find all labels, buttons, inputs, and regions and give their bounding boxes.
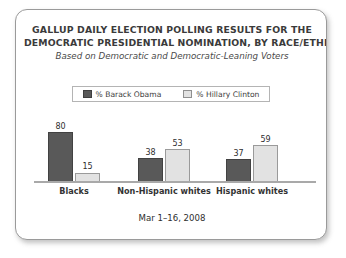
chart-subtitle: Based on Democratic and Democratic-Leani…	[24, 51, 320, 62]
bar-column: 38	[138, 110, 163, 182]
bar-group: 3759	[209, 110, 295, 182]
x-axis-line	[34, 181, 316, 183]
bar-obama	[226, 159, 251, 182]
bar-value-label: 37	[233, 149, 243, 158]
legend-swatch-obama-icon	[83, 90, 92, 98]
bar-column: 53	[165, 110, 190, 182]
category-labels: BlacksNon-Hispanic whitesHispanic whites	[34, 186, 312, 200]
legend-label-obama: % Barack Obama	[96, 90, 162, 99]
category-label: Non-Hispanic whites	[114, 186, 214, 196]
bar-value-label: 59	[260, 135, 270, 144]
bar-obama	[138, 158, 163, 182]
legend-swatch-clinton-icon	[183, 90, 192, 98]
chart-title-line-2: DEMOCRATIC PRESIDENTIAL NOMINATION, BY R…	[24, 37, 320, 50]
date-range-note: Mar 1–16, 2008	[24, 213, 320, 223]
chart-card: GALLUP DAILY ELECTION POLLING RESULTS FO…	[15, 9, 327, 240]
legend-item-clinton: % Hillary Clinton	[183, 90, 259, 99]
bar-clinton	[165, 149, 190, 182]
plot-area: 801538533759	[34, 110, 312, 182]
legend-label-clinton: % Hillary Clinton	[196, 90, 259, 99]
chart-title-line-1: GALLUP DAILY ELECTION POLLING RESULTS FO…	[24, 24, 320, 37]
bar-column: 37	[226, 110, 251, 182]
bar-value-label: 53	[172, 139, 182, 148]
category-label: Hispanic whites	[202, 186, 302, 196]
bar-group: 8015	[31, 110, 117, 182]
bar-clinton	[253, 145, 278, 182]
chart-legend: % Barack Obama % Hillary Clinton	[72, 86, 270, 102]
legend-item-obama: % Barack Obama	[83, 90, 162, 99]
category-label: Blacks	[24, 186, 124, 196]
bar-group: 3853	[121, 110, 207, 182]
bar-value-label: 15	[82, 162, 92, 171]
bar-column: 59	[253, 110, 278, 182]
bar-value-label: 38	[145, 148, 155, 157]
bar-column: 80	[48, 110, 73, 182]
bar-obama	[48, 132, 73, 182]
bar-column: 15	[75, 110, 100, 182]
title-block: GALLUP DAILY ELECTION POLLING RESULTS FO…	[24, 24, 320, 62]
bar-value-label: 80	[55, 122, 65, 131]
